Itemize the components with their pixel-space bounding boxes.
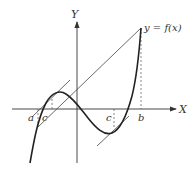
mvt-diagram: Y X y = f(x) a c c b — [0, 0, 195, 172]
point-c2-label: c — [106, 112, 112, 123]
secant-line — [38, 28, 141, 127]
curve-label: y = f(x) — [143, 22, 182, 33]
point-a-label: a — [28, 112, 34, 123]
point-c1-label: c — [42, 112, 48, 123]
function-curve — [30, 28, 141, 163]
tangent-line-c1 — [32, 80, 70, 117]
x-axis-label: X — [178, 103, 188, 116]
y-axis-label: Y — [71, 8, 80, 21]
point-b-label: b — [138, 112, 144, 123]
